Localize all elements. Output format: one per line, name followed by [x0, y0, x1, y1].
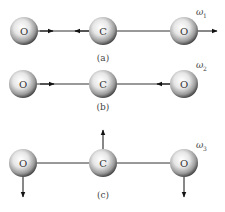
panel-caption: (a)	[97, 53, 109, 63]
co2-vibration-diagram: O C O ω 1 (a) O C O ω 2 (b) O C O ω	[0, 0, 225, 212]
mode-frequency-subscript: 3	[203, 145, 207, 152]
mode-frequency-subscript: 1	[203, 12, 207, 19]
atom-label: O	[180, 79, 188, 90]
atom-label: O	[180, 26, 188, 37]
panel-caption: (b)	[97, 102, 110, 112]
atom-label: O	[19, 158, 27, 169]
panel-b: O C O ω 2 (b)	[9, 60, 207, 112]
atom-label: O	[180, 158, 188, 169]
atom-label: O	[20, 26, 28, 37]
atom-label: C	[99, 79, 107, 90]
mode-frequency-subscript: 2	[203, 65, 207, 72]
atom-label: C	[99, 26, 107, 37]
atom-label: C	[99, 158, 107, 169]
panel-a: O C O ω 1 (a)	[10, 7, 217, 63]
atom-label: O	[19, 79, 27, 90]
panel-c: O C O ω 3 (c)	[9, 130, 207, 200]
panel-caption: (c)	[97, 190, 109, 200]
